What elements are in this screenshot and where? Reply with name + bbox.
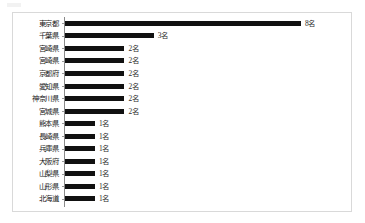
page-artifact-mark <box>7 3 21 7</box>
axis-tick <box>62 86 64 87</box>
axis-tick <box>62 48 64 49</box>
bar-and-value: 1名 <box>65 155 109 168</box>
bar-and-value: 2名 <box>65 80 139 93</box>
bar <box>65 134 95 139</box>
category-label: 宮崎県 <box>0 56 62 65</box>
bar <box>65 33 154 38</box>
bar-and-value: 1名 <box>65 130 109 143</box>
category-label: 東京都 <box>0 19 62 28</box>
category-label: 愛知県 <box>0 82 62 91</box>
bar-and-value: 2名 <box>65 92 139 105</box>
category-label: 宮城県 <box>0 107 62 116</box>
axis-tick <box>62 23 64 24</box>
category-label: 千葉県 <box>0 31 62 40</box>
axis-tick <box>62 98 64 99</box>
bar-rows-container: 東京都8名千葉県3名宮崎県2名宮崎県2名京都府2名愛知県2名神奈川県2名宮城県2… <box>13 17 351 205</box>
bar-and-value: 1名 <box>65 117 109 130</box>
bar <box>65 109 124 114</box>
bar-value-label: 1名 <box>99 157 109 166</box>
bar-value-label: 2名 <box>128 44 138 53</box>
bar-and-value: 2名 <box>65 55 139 68</box>
bar-value-label: 2名 <box>128 56 138 65</box>
category-label: 京都府 <box>0 69 62 78</box>
bar-value-label: 8名 <box>305 19 315 28</box>
bar-value-label: 2名 <box>128 94 138 103</box>
category-label: 長崎県 <box>0 132 62 141</box>
bar-and-value: 1名 <box>65 193 109 206</box>
bar-value-label: 1名 <box>99 144 109 153</box>
bar <box>65 46 124 51</box>
axis-tick <box>62 61 64 62</box>
bar-and-value: 1名 <box>65 168 109 181</box>
bar <box>65 146 95 151</box>
axis-tick <box>62 199 64 200</box>
bar-value-label: 1名 <box>99 132 109 141</box>
category-label: 北海道 <box>0 194 62 203</box>
bar <box>65 71 124 76</box>
chart-plot-area: 東京都8名千葉県3名宮崎県2名宮崎県2名京都府2名愛知県2名神奈川県2名宮城県2… <box>13 13 351 211</box>
axis-tick <box>62 161 64 162</box>
bar <box>65 159 95 164</box>
bar-value-label: 2名 <box>128 69 138 78</box>
bar-value-label: 1名 <box>99 182 109 191</box>
axis-tick <box>62 149 64 150</box>
axis-tick <box>62 111 64 112</box>
bar-value-label: 3名 <box>158 31 168 40</box>
bar-value-label: 1名 <box>99 169 109 178</box>
bar-and-value: 3名 <box>65 30 168 43</box>
bar-and-value: 2名 <box>65 42 139 55</box>
axis-tick <box>62 123 64 124</box>
category-label: 山形県 <box>0 182 62 191</box>
bar <box>65 21 301 26</box>
bar-value-label: 2名 <box>128 107 138 116</box>
axis-tick <box>62 174 64 175</box>
bar <box>65 171 95 176</box>
category-label: 兵庫県 <box>0 144 62 153</box>
bar-and-value: 2名 <box>65 67 139 80</box>
screenshot-root: 東京都8名千葉県3名宮崎県2名宮崎県2名京都府2名愛知県2名神奈川県2名宮城県2… <box>0 0 365 223</box>
category-label: 宮崎県 <box>0 44 62 53</box>
bar <box>65 96 124 101</box>
bar-chart-frame: 東京都8名千葉県3名宮崎県2名宮崎県2名京都府2名愛知県2名神奈川県2名宮城県2… <box>12 12 352 212</box>
axis-tick <box>62 136 64 137</box>
bar <box>65 196 95 201</box>
bar-value-label: 2名 <box>128 82 138 91</box>
bar-value-label: 1名 <box>99 194 109 203</box>
axis-tick <box>62 73 64 74</box>
bar-and-value: 1名 <box>65 142 109 155</box>
axis-tick <box>62 186 64 187</box>
bar-and-value: 1名 <box>65 180 109 193</box>
bar <box>65 58 124 63</box>
axis-tick <box>62 36 64 37</box>
category-label: 神奈川県 <box>0 94 62 103</box>
category-label: 山梨県 <box>0 169 62 178</box>
bar <box>65 84 124 89</box>
bar-and-value: 2名 <box>65 105 139 118</box>
category-label: 熊本県 <box>0 119 62 128</box>
category-label: 大阪府 <box>0 157 62 166</box>
bar-and-value: 8名 <box>65 17 315 30</box>
bar <box>65 121 95 126</box>
bar <box>65 184 95 189</box>
bar-value-label: 1名 <box>99 119 109 128</box>
